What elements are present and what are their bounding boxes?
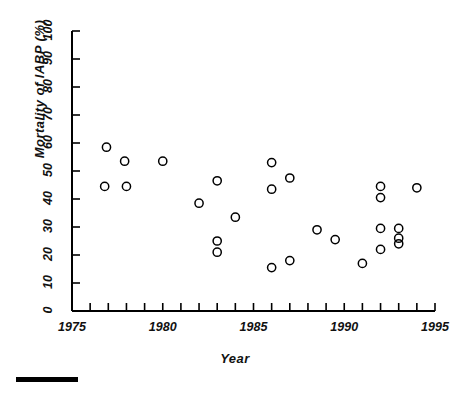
y-axis-title-wrapper: Mortality of IABP (%) [30,0,48,214]
scatter-chart-figure: 0102030405060708090100 19751980198519901… [0,0,470,398]
data-point [313,226,321,234]
data-point [268,159,276,167]
data-point [121,157,129,165]
data-point [159,157,167,165]
data-point [286,257,294,265]
data-point [395,240,403,248]
figure-scale-bar [16,377,78,382]
data-point [213,177,221,185]
data-point [231,213,239,221]
x-tick-label: 1985 [240,320,268,334]
y-axis-title: Mortality of IABP (%) [32,20,47,159]
data-point [376,224,384,232]
data-points [101,143,421,272]
data-point [195,199,203,207]
x-axis-title-wrapper: Year [0,349,470,367]
data-point [413,184,421,192]
data-point [102,143,110,151]
data-point [395,224,403,232]
data-point [376,182,384,190]
data-point [376,245,384,253]
x-tick-label: 1990 [330,320,358,334]
data-point [213,237,221,245]
data-point [331,236,339,244]
x-tick-label: 1975 [58,320,86,334]
data-point [101,182,109,190]
data-point [268,185,276,193]
data-point [122,182,130,190]
data-point [358,259,366,267]
plot-canvas [0,0,470,398]
data-point [376,194,384,202]
x-axis-title: Year [220,351,250,366]
x-tick-label: 1980 [149,320,177,334]
x-tick-label: 1995 [421,320,449,334]
data-point [213,248,221,256]
axes [72,31,435,311]
data-point [286,174,294,182]
data-point [268,264,276,272]
